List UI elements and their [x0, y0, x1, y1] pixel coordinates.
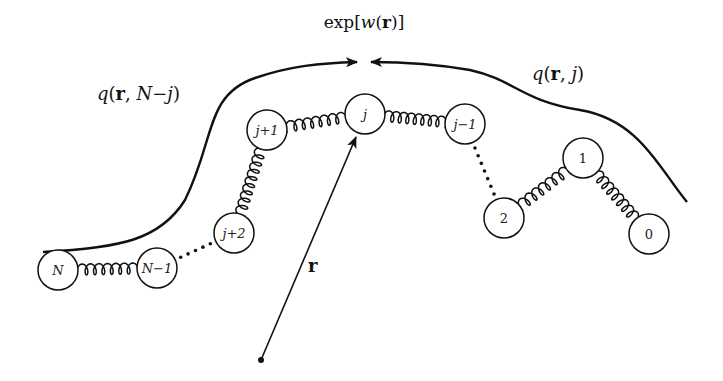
dot	[186, 252, 190, 256]
right-propagator-curve	[371, 62, 687, 202]
node-N-1: N−1	[137, 248, 177, 288]
node-label: j+1	[252, 123, 278, 138]
title-label: exp[w(r)]	[324, 12, 405, 32]
node-j-1: j−1	[445, 104, 485, 144]
origin-point	[258, 357, 264, 363]
dot	[486, 177, 490, 181]
node-j+1: j+1	[247, 110, 287, 150]
dot	[194, 249, 198, 253]
position-vector-label: r	[308, 255, 318, 276]
node-label: j+2	[219, 226, 245, 241]
node-2: 2	[484, 198, 524, 238]
spring-bond	[77, 263, 139, 275]
dot	[489, 185, 493, 189]
node-label: 0	[645, 227, 653, 242]
right-propagator-label: q(r, j)	[532, 63, 584, 84]
node-label: N	[51, 263, 64, 278]
polymer-chain-diagram: NN−1j+2j+1jj−1210 exp[w(r)] q(r, N−j) q(…	[0, 0, 723, 381]
left-propagator-label: q(r, N−j)	[97, 83, 180, 104]
dot	[483, 169, 487, 173]
spring-bond	[236, 148, 266, 217]
node-0: 0	[629, 214, 669, 254]
node-j: j	[345, 94, 385, 134]
spring-bond	[286, 112, 347, 132]
spring-bond	[592, 171, 639, 223]
dot	[476, 154, 480, 158]
spring-bond	[383, 111, 446, 128]
position-vector-arrow	[261, 137, 356, 360]
dot	[209, 242, 213, 246]
dot	[480, 162, 484, 166]
dot	[492, 192, 496, 196]
dot	[473, 146, 477, 150]
node-label: 1	[579, 151, 587, 166]
node-j+2: j+2	[214, 213, 254, 253]
monomer-nodes: NN−1j+2j+1jj−1210	[38, 94, 669, 290]
dot	[179, 255, 183, 259]
node-label: j−1	[450, 117, 476, 132]
node-1: 1	[563, 138, 603, 178]
node-label: N−1	[141, 261, 173, 276]
left-propagator-curve	[43, 62, 357, 252]
dot	[201, 245, 205, 249]
node-label: 2	[500, 211, 508, 226]
node-N: N	[38, 250, 78, 290]
spring-bond	[518, 167, 570, 210]
